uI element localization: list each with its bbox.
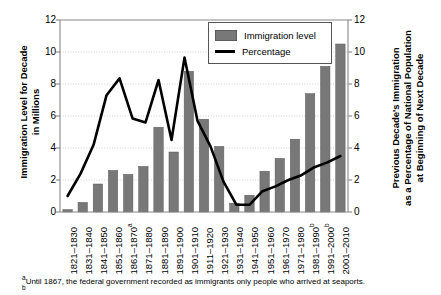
legend-item-immigration-level: Immigration level (215, 27, 325, 43)
footnote-marker: b (22, 284, 26, 291)
x-tick-label-text: 2001–2010 (340, 217, 351, 275)
bar (169, 152, 178, 212)
footnote-marker: b (308, 223, 315, 227)
x-tick-label: 1981–1990b (302, 214, 318, 276)
chart-legend: Immigration level Percentage (208, 22, 332, 64)
bar (124, 174, 133, 212)
bar (305, 94, 314, 212)
x-tick-label: 1991–2000b (317, 214, 333, 276)
x-tick-label: 1941–1950 (241, 214, 257, 276)
x-tick-label: 1931–1940 (226, 214, 242, 276)
bar (93, 184, 102, 212)
x-tick-label: 2001–2010 (332, 214, 348, 276)
legend-item-percentage: Percentage (215, 43, 325, 59)
footnotes: aUntil 1867, the federal government reco… (22, 277, 437, 295)
x-tick-label: 1971–1980 (287, 214, 303, 276)
x-tick-label: 1961–1970 (272, 214, 288, 276)
x-tick-label: 1821–1830 (60, 214, 76, 276)
x-tick-label: 1841–1850 (90, 214, 106, 276)
x-tick-label: 1861–1870a (120, 214, 136, 276)
x-tick-label: 1871–1880 (135, 214, 151, 276)
footnote-marker: a (22, 274, 26, 281)
footnote: b (22, 287, 437, 295)
bar (154, 127, 163, 212)
footnote-marker: b (324, 223, 331, 227)
bar-swatch-icon (215, 30, 237, 41)
x-tick-label: 1951–1960 (257, 214, 273, 276)
immigration-chart-figure: Immigration Level for Decade in Millions… (0, 0, 441, 295)
x-tick-label: 1901–1910 (181, 214, 197, 276)
legend-item-label: Percentage (242, 46, 291, 57)
x-tick-label: 1891–1900 (166, 214, 182, 276)
x-tick-label: 1881–1890 (151, 214, 167, 276)
bar (108, 170, 117, 212)
footnote-marker: a (127, 223, 134, 227)
x-tick-label: 1911–1920 (196, 214, 212, 276)
bar (139, 166, 148, 212)
legend-item-label: Immigration level (244, 30, 316, 41)
x-tick-label: 1921–1930 (211, 214, 227, 276)
bar (321, 66, 330, 212)
x-tick-label: 1851–1860 (105, 214, 121, 276)
x-axis-ticks: 1821–18301831–18401841–18501851–18601861… (60, 214, 348, 276)
bar (78, 202, 87, 212)
line-swatch-icon (215, 50, 235, 53)
x-tick-label: 1831–1840 (75, 214, 91, 276)
footnote: aUntil 1867, the federal government reco… (22, 277, 437, 287)
bar (336, 44, 345, 212)
